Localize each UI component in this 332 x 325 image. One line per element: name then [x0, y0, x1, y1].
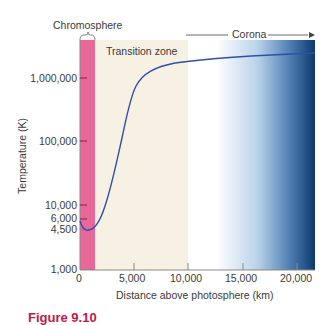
corona-arrowhead-icon	[309, 32, 315, 38]
x-tick-label: 5,000	[119, 272, 145, 284]
transition-zone-region	[95, 40, 188, 270]
y-tick-label: 10,000	[45, 199, 77, 211]
corona-region	[188, 40, 315, 270]
x-tick-label: 10,000	[170, 272, 202, 284]
y-axis-title: Temperature (K)	[16, 111, 28, 201]
x-tick-label: 0	[76, 272, 82, 284]
y-tick-label: 1,000,000	[30, 72, 77, 84]
y-tick-label: 4,500	[51, 223, 77, 235]
x-tick-label: 15,000	[225, 272, 257, 284]
chromosphere-label: Chromosphere	[53, 19, 122, 31]
y-tick-label: 100,000	[39, 135, 77, 147]
corona-label: Corona	[232, 28, 266, 40]
chromosphere-brace	[80, 32, 95, 40]
x-tick-label: 20,000	[280, 272, 312, 284]
transition-zone-label: Transition zone	[106, 45, 177, 57]
x-axis-title: Distance above photosphere (km)	[116, 289, 274, 301]
chromosphere-region	[80, 40, 95, 270]
y-tick-label: 1,000	[51, 263, 77, 275]
figure-caption: Figure 9.10	[28, 310, 97, 325]
